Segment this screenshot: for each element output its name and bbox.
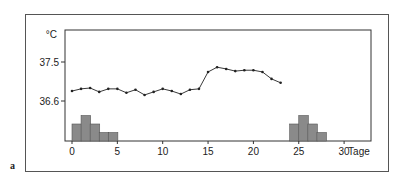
temperature-chart: 051015202530Tage36.637.5°C <box>0 0 406 182</box>
data-point <box>225 68 228 71</box>
temperature-line <box>71 66 282 96</box>
bar <box>308 124 318 141</box>
data-point <box>180 93 183 96</box>
data-point <box>170 90 173 93</box>
data-point <box>189 88 192 91</box>
bar <box>72 124 82 141</box>
x-axis-label: Tage <box>348 146 370 157</box>
bar <box>299 116 309 142</box>
plot-area-border <box>65 30 371 141</box>
data-point <box>234 70 237 73</box>
data-point <box>116 88 119 91</box>
data-point <box>216 66 219 69</box>
data-point <box>252 69 255 72</box>
bar <box>290 124 300 141</box>
data-point <box>152 91 155 94</box>
data-point <box>107 88 110 91</box>
y-axis-label: °C <box>46 29 57 40</box>
x-tick-label: 20 <box>248 146 260 157</box>
x-tick-label: 10 <box>157 146 169 157</box>
temperature-polyline <box>72 67 281 95</box>
bar <box>108 133 118 142</box>
x-tick-label: 5 <box>115 146 121 157</box>
data-point <box>243 69 246 72</box>
data-point <box>125 91 128 94</box>
data-point <box>261 71 264 74</box>
y-tick-label: 36.6 <box>40 96 60 107</box>
x-tick-label: 0 <box>69 146 75 157</box>
data-point <box>89 87 92 90</box>
data-point <box>98 91 101 94</box>
bar <box>81 116 91 142</box>
x-tick-label: 15 <box>202 146 214 157</box>
bar <box>99 133 109 142</box>
data-point <box>207 71 210 74</box>
data-point <box>143 94 146 97</box>
y-tick-label: 37.5 <box>40 57 60 68</box>
bar <box>90 124 100 141</box>
data-point <box>198 88 201 91</box>
data-point <box>270 78 273 81</box>
data-point <box>279 82 282 85</box>
data-point <box>80 88 83 91</box>
plot-axes <box>65 30 371 141</box>
bar <box>317 133 327 142</box>
menstruation-bars <box>72 116 326 142</box>
data-point <box>161 88 164 91</box>
x-tick-label: 25 <box>293 146 305 157</box>
data-point <box>71 90 74 93</box>
data-point <box>134 88 137 91</box>
